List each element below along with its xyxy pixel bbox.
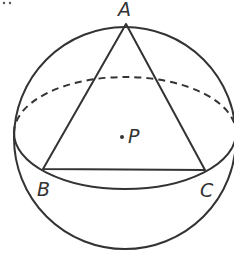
- corner-dots: [3, 2, 11, 4]
- triangle-abc: [43, 24, 205, 170]
- label-p: P: [128, 125, 140, 147]
- equator-back-dashed: [14, 77, 234, 133]
- label-a: A: [116, 0, 131, 20]
- sphere-diagram: A B C P: [0, 0, 234, 254]
- label-c: C: [200, 179, 214, 201]
- sphere-outline: [14, 27, 234, 249]
- point-p-dot: [120, 135, 124, 139]
- label-b: B: [37, 178, 50, 200]
